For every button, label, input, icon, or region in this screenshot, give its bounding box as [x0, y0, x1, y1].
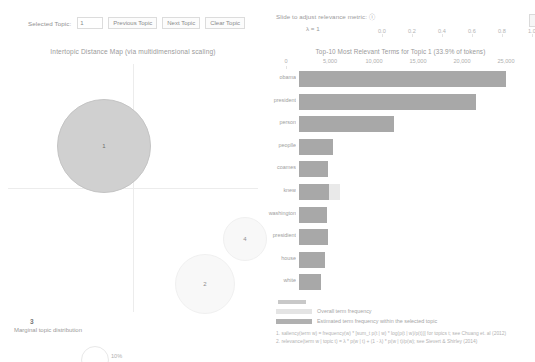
slider-tick-3: 0.6	[468, 28, 476, 34]
bar-term-label: washington	[266, 210, 296, 216]
x-tick-1: 5,000	[323, 58, 337, 64]
marginal-topic-caption: Marginal topic distribution	[14, 327, 154, 333]
relevance-slider[interactable]: 0.0 0.2 0.4 0.6 0.8 1.0	[382, 26, 532, 35]
bubble-size-legend: 2% 5% 10%	[70, 345, 160, 362]
ldavis-root: Selected Topic: 1 Previous Topic Next To…	[0, 0, 535, 362]
intertopic-scatter-plot[interactable]: 1 2 4	[0, 58, 266, 318]
slider-tick-0: 0.0	[378, 28, 386, 34]
relevant-terms-panel: Slide to adjust relevance metric: ⓘ λ = …	[266, 0, 535, 362]
bar-topic-frequency	[299, 94, 476, 110]
legend-label-overall: Overall term frequency	[317, 308, 372, 314]
slider-tick-5: 1.0	[528, 28, 535, 34]
topic-control-bar: Selected Topic: 1 Previous Topic Next To…	[0, 14, 250, 32]
x-tick-4: 20,000	[453, 58, 470, 64]
marginal-topic-number: 3	[14, 318, 154, 325]
bar-row[interactable]: coames	[266, 160, 535, 179]
topic-bubble-1-label: 1	[102, 143, 105, 149]
bar-row[interactable]: house	[266, 251, 535, 270]
relevance-slider-caption-text: Slide to adjust relevance metric:	[276, 13, 367, 20]
slider-tick-4: 0.8	[498, 28, 506, 34]
lambda-value-label: λ = 1	[306, 25, 320, 32]
legend-swatch-topic	[276, 319, 312, 324]
bar-row[interactable]: obama	[266, 70, 535, 89]
x-tick-2: 10,000	[365, 58, 382, 64]
footnotes: 1. saliency(term w) = frequency(w) * [su…	[276, 330, 535, 346]
bar-term-label: presidient	[266, 232, 296, 238]
bar-term-label: person	[266, 119, 296, 125]
bar-term-label: obama	[266, 74, 296, 80]
selected-topic-label: Selected Topic:	[0, 20, 71, 27]
size-legend-label-10: 10%	[111, 353, 122, 359]
bar-topic-frequency	[299, 184, 329, 200]
x-tick-5: 25,000	[497, 58, 514, 64]
bar-row[interactable]: knew	[266, 183, 535, 202]
bar-topic-frequency	[299, 252, 325, 268]
topic-bubble-4-label: 4	[243, 236, 246, 242]
bar-topic-frequency	[299, 207, 327, 223]
bar-topic-frequency	[299, 229, 328, 245]
relevance-slider-block: Slide to adjust relevance metric: ⓘ λ = …	[272, 12, 535, 46]
info-icon[interactable]: ⓘ	[369, 13, 375, 20]
bar-topic-frequency	[299, 139, 333, 155]
bar-topic-frequency	[299, 71, 506, 87]
footnote-2: 2. relevance(term w | topic t) = λ * p(w…	[276, 338, 535, 346]
bar-row[interactable]: presidient	[266, 228, 535, 247]
top-terms-bar-chart: 0 5,000 10,000 15,000 20,000 25,000 obam…	[266, 58, 535, 300]
relevance-slider-handle[interactable]	[529, 14, 535, 27]
lambda-row: λ = 1 0.0 0.2 0.4 0.6 0.8 1.0	[272, 25, 535, 37]
bar-row[interactable]: peoplle	[266, 138, 535, 157]
previous-topic-button[interactable]: Previous Topic	[108, 17, 157, 29]
intertopic-distance-panel: Intertopic Distance Map (via multidimens…	[0, 40, 266, 362]
topic-bubble-2[interactable]: 2	[175, 254, 235, 314]
x-tick-3: 15,000	[409, 58, 426, 64]
bar-term-label: knew	[266, 187, 296, 193]
legend-row-overall: Overall term frequency	[276, 308, 535, 314]
legend-row-topic: Estimated term frequency within the sele…	[276, 318, 535, 324]
bar-row[interactable]: washington	[266, 206, 535, 225]
x-tick-0: 0	[284, 58, 287, 64]
bar-term-label: president	[266, 97, 296, 103]
footnote-1: 1. saliency(term w) = frequency(w) * [su…	[276, 330, 535, 338]
bar-row[interactable]: person	[266, 115, 535, 134]
bar-topic-frequency	[299, 116, 394, 132]
slider-tick-1: 0.2	[408, 28, 416, 34]
bar-term-label: peoplle	[266, 142, 296, 148]
bar-topic-frequency	[299, 274, 321, 290]
top-terms-title: Top-10 Most Relevant Terms for Topic 1 (…	[266, 48, 535, 55]
legend-top-rule	[278, 300, 306, 304]
bar-chart-legend: Overall term frequency Estimated term fr…	[276, 300, 535, 346]
bar-row[interactable]: white	[266, 273, 535, 292]
legend-label-topic: Estimated term frequency within the sele…	[317, 318, 437, 324]
relevance-slider-caption: Slide to adjust relevance metric: ⓘ	[272, 12, 535, 21]
bar-row[interactable]: president	[266, 93, 535, 112]
bar-term-label: house	[266, 255, 296, 261]
legend-swatch-overall	[276, 309, 312, 314]
bar-term-label: coames	[266, 164, 296, 170]
bar-chart-x-axis: 0 5,000 10,000 15,000 20,000 25,000	[286, 58, 531, 68]
pc2-axis	[133, 64, 134, 312]
topic-bubble-2-label: 2	[203, 281, 206, 287]
slider-tick-2: 0.4	[438, 28, 446, 34]
marginal-topic-distribution: 3 Marginal topic distribution	[14, 318, 154, 333]
selected-topic-input[interactable]: 1	[77, 17, 103, 29]
bar-term-label: white	[266, 277, 296, 283]
intertopic-map-title: Intertopic Distance Map (via multidimens…	[0, 48, 266, 55]
topic-bubble-1[interactable]: 1	[57, 99, 151, 193]
bar-topic-frequency	[299, 161, 328, 177]
next-topic-button[interactable]: Next Topic	[162, 17, 200, 29]
topic-bubble-4[interactable]: 4	[223, 217, 267, 261]
clear-topic-button[interactable]: Clear Topic	[205, 17, 245, 29]
size-legend-circle-10	[81, 346, 109, 362]
